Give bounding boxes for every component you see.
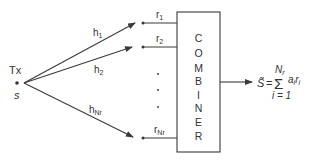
formula-term: airi xyxy=(288,74,300,86)
svg-text:B: B xyxy=(195,75,202,87)
sum-lower-limit: i = 1 xyxy=(272,90,291,101)
formula-equals: = xyxy=(266,77,272,89)
svg-text:C: C xyxy=(195,32,203,44)
svg-text:hNr: hNr xyxy=(89,104,103,116)
channel-arrow-nr xyxy=(24,83,133,137)
transmitter-label: Tx xyxy=(9,64,22,76)
received-label-rnr: rNr xyxy=(154,124,165,136)
svg-text:I: I xyxy=(197,89,200,101)
channel-arrow-2 xyxy=(24,47,132,83)
ellipsis-dots xyxy=(157,73,159,108)
channel-label-hnr: hNr xyxy=(89,104,103,116)
sum-upper-limit: Nr xyxy=(275,64,285,76)
channel-label-h2: h2 xyxy=(94,64,104,76)
svg-text:O: O xyxy=(194,47,202,59)
received-label-r1: r1 xyxy=(156,9,163,21)
formula-lhs: S̃ xyxy=(257,77,265,89)
transmitter-node xyxy=(15,81,19,85)
svg-text:R: R xyxy=(195,130,203,142)
channel-label-h1: h1 xyxy=(93,27,103,39)
diversity-combiner-diagram: Tx s h1 h2 hNr r1 r2 rNr C O M B I xyxy=(0,0,316,160)
svg-text:N: N xyxy=(195,102,203,114)
svg-text:h2: h2 xyxy=(94,64,104,76)
svg-text:rNr: rNr xyxy=(154,124,165,136)
svg-text:M: M xyxy=(194,62,203,74)
svg-text:E: E xyxy=(195,116,202,128)
output-formula: S̃ = Σ Nr i = 1 airi xyxy=(257,64,300,101)
svg-text:r2: r2 xyxy=(156,33,163,45)
svg-text:r1: r1 xyxy=(156,9,163,21)
received-label-r2: r2 xyxy=(156,33,163,45)
svg-text:h1: h1 xyxy=(93,27,103,39)
channel-arrow-1 xyxy=(24,23,135,83)
transmitted-symbol-label: s xyxy=(14,89,20,101)
